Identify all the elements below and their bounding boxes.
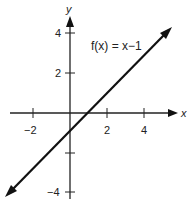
- y-tick-label: −4: [47, 186, 60, 198]
- y-axis-label: y: [65, 3, 73, 15]
- x-tick-label: 2: [104, 124, 110, 136]
- function-label: f(x) = x−1: [91, 39, 142, 53]
- y-tick-label: 4: [55, 27, 61, 39]
- x-axis-arrow-icon: [168, 109, 178, 117]
- x-axis-label: x: [180, 107, 187, 119]
- x-tick-label: 4: [141, 124, 147, 136]
- y-tick-label: 2: [55, 67, 61, 79]
- function-line: [12, 34, 165, 190]
- y-axis-arrow-icon: [66, 16, 74, 27]
- function-graph: x y −2 2 4 4 2 −4 f(x) = x−1: [0, 0, 187, 199]
- x-tick-label: −2: [24, 124, 37, 136]
